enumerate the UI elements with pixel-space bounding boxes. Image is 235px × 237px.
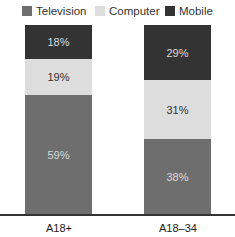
- mobile-swatch-icon: [165, 6, 175, 16]
- x-tick-label: A18+: [19, 222, 99, 234]
- legend-item-computer: Computer: [95, 5, 160, 17]
- legend-label: Mobile: [179, 5, 213, 17]
- segment-television: 59%: [25, 95, 92, 214]
- x-axis-line: [0, 214, 235, 216]
- legend-item-television: Television: [22, 5, 87, 17]
- bar-a18-34: 29% 31% 38%: [144, 25, 211, 214]
- x-tick-label: A18–34: [138, 222, 218, 234]
- legend-label: Computer: [109, 5, 160, 17]
- legend-label: Television: [36, 5, 87, 17]
- computer-swatch-icon: [95, 6, 105, 16]
- segment-computer: 31%: [144, 80, 211, 139]
- television-swatch-icon: [22, 6, 32, 16]
- segment-television: 38%: [144, 139, 211, 214]
- segment-computer: 19%: [25, 59, 92, 95]
- bar-a18-plus: 18% 19% 59%: [25, 25, 92, 214]
- segment-mobile: 18%: [25, 25, 92, 59]
- legend-item-mobile: Mobile: [165, 5, 213, 17]
- legend: Television Computer Mobile: [0, 2, 235, 20]
- segment-mobile: 29%: [144, 25, 211, 80]
